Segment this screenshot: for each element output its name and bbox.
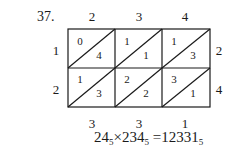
base-subscript: 5	[199, 137, 204, 147]
equals-sign: =	[153, 129, 161, 145]
cell-tens: 1	[74, 74, 86, 85]
cell-tens: 3	[168, 74, 180, 85]
cell-tens: 1	[168, 36, 180, 47]
cell-ones: 4	[93, 50, 105, 61]
multiplier: 234	[122, 129, 145, 145]
cell-tens: 1	[121, 36, 133, 47]
product: 12331	[161, 129, 199, 145]
cell-ones: 3	[93, 88, 105, 99]
lattice-grid	[0, 0, 232, 149]
multiplicand: 24	[94, 129, 109, 145]
cell-ones: 2	[140, 88, 152, 99]
equation: 245×2345 =123315	[94, 129, 203, 145]
base-subscript: 5	[144, 137, 149, 147]
cell-ones: 1	[187, 88, 199, 99]
times-sign: ×	[114, 129, 122, 145]
cell-tens: 2	[121, 74, 133, 85]
cell-ones: 3	[187, 50, 199, 61]
cell-ones: 1	[140, 50, 152, 61]
cell-tens: 0	[74, 36, 86, 47]
